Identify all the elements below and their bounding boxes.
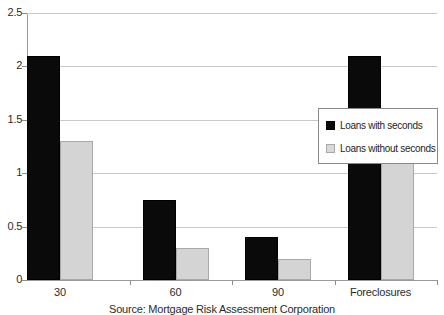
y-tick-label-1.5: 1.5 (8, 114, 22, 125)
bar-foreclosures-series-0 (348, 56, 381, 280)
y-tick-label-0.5: 0.5 (8, 221, 22, 232)
bar-90-series-1 (278, 259, 311, 280)
y-axis-tick-labels: 00.511.522.5 (0, 0, 22, 314)
x-tick-mark-2 (232, 280, 233, 285)
bar-30-series-0 (27, 56, 60, 280)
y-tick-label-2.5: 2.5 (8, 7, 22, 18)
legend-item-loans-without-seconds: Loans without seconds (326, 142, 435, 154)
bar-group-30 (27, 13, 93, 280)
bar-group-60 (143, 13, 209, 280)
bar-foreclosures-series-1 (381, 144, 414, 280)
bar-30-series-1 (60, 141, 93, 280)
y-tick-mark-0 (22, 280, 27, 281)
legend-swatch-icon-series-0 (326, 121, 335, 130)
bar-60-series-1 (176, 248, 209, 280)
bar-60-series-0 (143, 200, 176, 280)
legend: Loans with seconds Loans without seconds (318, 108, 438, 164)
legend-item-loans-with-seconds: Loans with seconds (326, 119, 422, 131)
x-tick-label-30: 30 (10, 286, 110, 299)
x-tick-mark-1 (130, 280, 131, 285)
legend-label-series-1: Loans without seconds (340, 143, 435, 154)
x-tick-label-60: 60 (126, 286, 226, 299)
legend-swatch-icon-series-1 (326, 144, 335, 153)
chart-source-caption: Source: Mortgage Risk Assessment Corpora… (0, 303, 444, 315)
x-tick-label-90: 90 (228, 286, 328, 299)
x-tick-mark-3 (335, 280, 336, 285)
legend-label-series-0: Loans with seconds (340, 120, 422, 131)
bar-90-series-0 (245, 237, 278, 280)
bar-group-90 (245, 13, 311, 280)
x-tick-label-foreclosures: Foreclosures (331, 286, 431, 299)
x-tick-mark-end (437, 280, 438, 285)
